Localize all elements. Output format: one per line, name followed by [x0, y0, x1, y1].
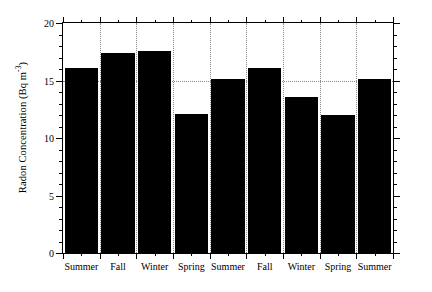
x-axis-tick — [210, 253, 211, 259]
x-axis-tick — [173, 17, 174, 23]
x-axis-tick-label: Summer — [64, 261, 98, 272]
y-axis-minor-tick — [59, 46, 63, 47]
y-axis-minor-tick — [59, 127, 63, 128]
bar — [321, 115, 355, 253]
y-axis-tick — [56, 23, 63, 24]
y-axis-tick — [393, 253, 400, 254]
x-axis-minor-tick — [338, 253, 339, 256]
plot-inner: 05101520SummerFallWinterSpringSummerFall… — [63, 23, 393, 253]
y-axis-minor-tick — [393, 58, 397, 59]
x-axis-tick — [100, 17, 101, 23]
y-axis-minor-tick — [393, 230, 397, 231]
y-axis-minor-tick — [393, 242, 397, 243]
bar — [285, 97, 319, 253]
x-axis-tick-label: Summer — [358, 261, 392, 272]
x-axis-tick — [136, 17, 137, 23]
y-axis-minor-tick — [393, 46, 397, 47]
x-axis-minor-tick — [118, 253, 119, 256]
y-axis-minor-tick — [393, 219, 397, 220]
y-axis-minor-tick — [59, 115, 63, 116]
y-axis-minor-tick — [393, 104, 397, 105]
y-axis-minor-tick — [393, 173, 397, 174]
x-axis-tick — [320, 17, 321, 23]
x-axis-minor-tick — [191, 20, 192, 23]
y-axis-title: Radon Concentration (Bq m-3) — [17, 20, 28, 236]
x-axis-minor-tick — [338, 20, 339, 23]
x-axis-tick — [210, 17, 211, 23]
y-axis-tick — [393, 138, 400, 139]
y-axis-minor-tick — [59, 184, 63, 185]
x-axis-minor-tick — [265, 20, 266, 23]
x-axis-tick-label: Summer — [211, 261, 245, 272]
y-axis-title-text: Radon Concentration (Bq m — [17, 72, 28, 193]
y-axis-tick — [393, 81, 400, 82]
x-axis-minor-tick — [118, 20, 119, 23]
x-axis-minor-tick — [375, 253, 376, 256]
y-axis-minor-tick — [393, 69, 397, 70]
x-axis-tick — [173, 253, 174, 259]
y-axis-minor-tick — [59, 173, 63, 174]
y-axis-minor-tick — [393, 115, 397, 116]
x-axis-tick-label: Fall — [110, 261, 126, 272]
y-axis-tick-label: 15 — [44, 75, 54, 86]
y-axis-minor-tick — [59, 230, 63, 231]
radon-concentration-bar-chart: Radon Concentration (Bq m-3) 05101520Sum… — [0, 0, 432, 292]
y-axis-minor-tick — [393, 92, 397, 93]
y-axis-minor-tick — [59, 35, 63, 36]
y-axis-title-container: Radon Concentration (Bq m-3) — [0, 0, 34, 292]
x-axis-tick — [63, 253, 64, 259]
x-axis-tick — [393, 17, 394, 23]
x-axis-minor-tick — [191, 253, 192, 256]
y-axis-tick — [393, 196, 400, 197]
y-axis-minor-tick — [59, 207, 63, 208]
y-axis-minor-tick — [59, 242, 63, 243]
x-axis-tick — [246, 17, 247, 23]
x-axis-tick — [246, 253, 247, 259]
x-axis-tick — [356, 253, 357, 259]
x-axis-tick — [320, 253, 321, 259]
y-axis-tick-label: 0 — [49, 248, 54, 259]
y-axis-title-suffix: ) — [17, 62, 28, 66]
bar — [248, 68, 282, 253]
x-axis-minor-tick — [155, 20, 156, 23]
y-axis-tick — [56, 196, 63, 197]
x-axis-tick-label: Winter — [141, 261, 168, 272]
y-axis-minor-tick — [393, 150, 397, 151]
x-axis-tick — [356, 17, 357, 23]
y-axis-title-exponent: -3 — [14, 65, 23, 71]
y-axis-minor-tick — [59, 104, 63, 105]
bar — [138, 51, 172, 253]
plot-area: 05101520SummerFallWinterSpringSummerFall… — [62, 22, 394, 254]
y-axis-tick-label: 20 — [44, 18, 54, 29]
y-axis-tick-label: 10 — [44, 133, 54, 144]
x-axis-minor-tick — [81, 253, 82, 256]
x-axis-tick — [393, 253, 394, 259]
x-axis-minor-tick — [265, 253, 266, 256]
x-axis-tick — [283, 17, 284, 23]
y-axis-minor-tick — [59, 219, 63, 220]
y-axis-minor-tick — [59, 92, 63, 93]
x-axis-tick-label: Winter — [288, 261, 315, 272]
y-axis-minor-tick — [59, 58, 63, 59]
y-axis-minor-tick — [59, 69, 63, 70]
x-axis-tick-label: Spring — [178, 261, 205, 272]
y-axis-minor-tick — [393, 161, 397, 162]
y-axis-tick — [56, 138, 63, 139]
x-axis-minor-tick — [155, 253, 156, 256]
x-axis-minor-tick — [301, 253, 302, 256]
y-axis-minor-tick — [393, 127, 397, 128]
x-axis-minor-tick — [228, 20, 229, 23]
y-axis-minor-tick — [393, 184, 397, 185]
y-axis-tick — [56, 81, 63, 82]
bar — [101, 53, 135, 253]
x-axis-minor-tick — [81, 20, 82, 23]
x-axis-tick — [100, 253, 101, 259]
bar — [65, 68, 99, 253]
bar — [211, 79, 245, 253]
y-axis-minor-tick — [393, 207, 397, 208]
x-axis-tick-label: Spring — [325, 261, 352, 272]
y-axis-minor-tick — [59, 150, 63, 151]
x-axis-minor-tick — [301, 20, 302, 23]
x-axis-minor-tick — [228, 253, 229, 256]
y-axis-tick-label: 5 — [49, 190, 54, 201]
